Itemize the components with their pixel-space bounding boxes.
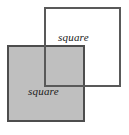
filled-square-shape — [7, 45, 85, 122]
filled-square-label: square — [28, 86, 59, 97]
outline-square-label: square — [58, 32, 89, 43]
figure-canvas: square square — [0, 0, 129, 135]
